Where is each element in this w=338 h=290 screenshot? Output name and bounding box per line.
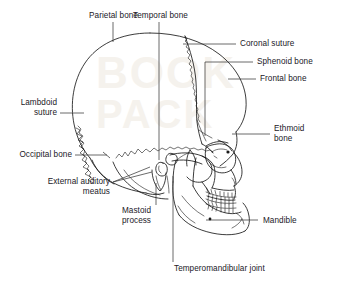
label-occipital-bone: Occipital bone xyxy=(2,150,72,160)
label-external-auditory-meatus: External auditory meatus xyxy=(20,177,110,196)
label-temperomandibular-joint: Temperomandibular joint xyxy=(174,264,314,274)
label-lambdoid-suture: Lambdoid suture xyxy=(2,98,57,117)
label-frontal-bone: Frontal bone xyxy=(260,74,338,84)
label-mandible: Mandible xyxy=(263,216,323,226)
label-ethmoid-bone: Ethmoid bone xyxy=(274,124,334,143)
label-temporal-bone: Temporal bone xyxy=(117,11,204,21)
external-auditory-meatus-opening xyxy=(156,162,167,176)
leader-mandible-dot xyxy=(209,218,212,221)
label-sphenoid-bone: Sphenoid bone xyxy=(257,57,337,67)
watermark: BOOK PACK xyxy=(96,48,236,136)
label-mastoid-process: Mastoid process xyxy=(122,206,174,225)
leader-external-auditory-meatus-2 xyxy=(113,167,150,182)
mastoid-process-shape xyxy=(152,170,166,191)
svg-text:BOOK: BOOK xyxy=(96,48,236,97)
label-coronal-suture: Coronal suture xyxy=(240,39,336,49)
